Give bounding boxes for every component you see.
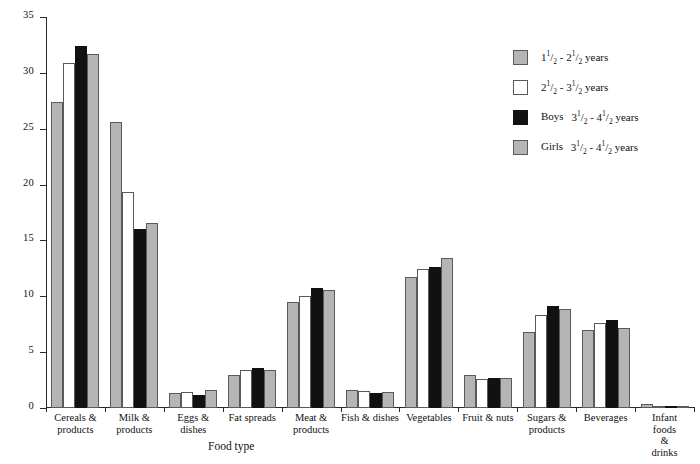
bar-group — [287, 17, 335, 408]
legend: 11/2 - 21/2 years21/2 - 31/2 yearsBoys 3… — [513, 42, 639, 162]
bar — [287, 302, 299, 408]
legend-label: Boys 31/2 - 41/2 years — [541, 109, 639, 126]
bar-group — [228, 17, 276, 408]
bar-group — [641, 17, 689, 408]
y-tick-mark — [40, 352, 46, 353]
bar-group — [346, 17, 394, 408]
y-tick-mark — [40, 73, 46, 74]
y-tick-label: 20 — [23, 177, 34, 188]
x-tick-mark — [164, 407, 165, 412]
x-tick-mark — [517, 407, 518, 412]
legend-item[interactable]: Girls 31/2 - 41/2 years — [513, 132, 639, 162]
bar — [87, 54, 99, 408]
bar-group — [110, 17, 158, 408]
bar — [535, 315, 547, 408]
y-tick-mark — [40, 240, 46, 241]
bar-group — [51, 17, 99, 408]
y-tick-label: 30 — [23, 65, 34, 76]
bar — [594, 323, 606, 408]
bar — [110, 122, 122, 408]
x-category-label: Fish & dishes — [341, 412, 399, 424]
legend-label: Girls 31/2 - 41/2 years — [541, 139, 638, 156]
x-tick-mark — [635, 407, 636, 412]
bar — [500, 378, 512, 408]
x-category-label: Vegetables — [406, 412, 451, 424]
y-tick-mark — [40, 185, 46, 186]
bar — [146, 223, 158, 408]
x-tick-mark — [46, 407, 47, 412]
bar — [75, 46, 87, 408]
bar — [606, 320, 618, 408]
bar — [51, 102, 63, 408]
bar — [476, 379, 488, 408]
legend-item[interactable]: 21/2 - 31/2 years — [513, 72, 639, 102]
y-tick-label: 35 — [23, 9, 34, 20]
y-axis-line — [46, 17, 47, 408]
x-category-label: Fat spreads — [228, 412, 276, 424]
bar — [311, 288, 323, 408]
y-tick-label: 0 — [29, 400, 34, 411]
x-category-label: Beverages — [584, 412, 628, 424]
bar — [323, 290, 335, 408]
bar — [63, 63, 75, 408]
bar — [205, 390, 217, 408]
bar — [264, 370, 276, 408]
legend-label: 11/2 - 21/2 years — [541, 49, 608, 66]
x-tick-mark — [399, 407, 400, 412]
x-category-label: Eggs & dishes — [177, 412, 209, 435]
x-tick-mark — [694, 407, 695, 412]
bar-chart: 05101520253035 Cereals & productsMilk & … — [0, 0, 700, 464]
bar — [122, 192, 134, 408]
y-tick-label: 25 — [23, 121, 34, 132]
x-tick-mark — [282, 407, 283, 412]
bar — [464, 375, 476, 409]
y-tick-label: 15 — [23, 232, 34, 243]
bar — [240, 370, 252, 408]
bar — [252, 368, 264, 408]
legend-swatch — [513, 110, 528, 125]
bar — [547, 306, 559, 408]
bar — [134, 229, 146, 408]
bar — [582, 330, 594, 408]
x-category-label: Fruit & nuts — [462, 412, 513, 424]
x-tick-mark — [458, 407, 459, 412]
bar — [488, 378, 500, 408]
bar — [641, 404, 653, 408]
x-category-label: Sugars & products — [527, 412, 566, 435]
bar — [181, 392, 193, 408]
bar — [523, 332, 535, 408]
bar — [370, 393, 382, 408]
bar — [417, 269, 429, 408]
y-tick-mark — [40, 17, 46, 18]
bar — [665, 406, 677, 408]
y-tick-label: 10 — [23, 288, 34, 299]
legend-swatch — [513, 140, 528, 155]
legend-swatch — [513, 80, 528, 95]
bar — [405, 277, 417, 408]
bar — [346, 390, 358, 408]
bar — [193, 395, 205, 408]
bar — [382, 392, 394, 408]
x-category-label: Milk & products — [116, 412, 152, 435]
bar — [169, 393, 181, 408]
bar — [618, 328, 630, 408]
y-tick-mark — [40, 129, 46, 130]
bar — [653, 406, 665, 408]
legend-swatch — [513, 50, 528, 65]
bar — [228, 375, 240, 409]
bar — [677, 406, 689, 408]
bar — [429, 267, 441, 408]
bar-group — [464, 17, 512, 408]
bar — [358, 391, 370, 408]
bar — [441, 258, 453, 408]
legend-item[interactable]: 11/2 - 21/2 years — [513, 42, 639, 72]
bar — [299, 296, 311, 408]
legend-item[interactable]: Boys 31/2 - 41/2 years — [513, 102, 639, 132]
legend-label: 21/2 - 31/2 years — [541, 79, 608, 96]
x-tick-mark — [105, 407, 106, 412]
x-category-label: Cereals & products — [54, 412, 96, 435]
bar-group — [169, 17, 217, 408]
x-category-label: Infant foods & drinks — [647, 412, 682, 458]
y-tick-label: 5 — [29, 344, 34, 355]
bar — [559, 309, 571, 408]
